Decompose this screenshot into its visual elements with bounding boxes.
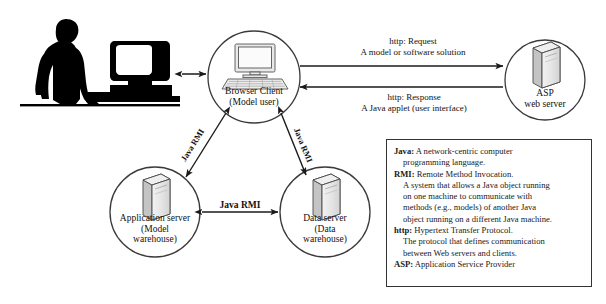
- legend-entry-http: http: Hypertext Transfer Protocol. The p…: [394, 225, 585, 259]
- legend-text-asp: Application Service Provider: [413, 259, 515, 269]
- edge-label-rmi-bottom: Java RMI: [205, 200, 275, 210]
- legend-entry-rmi: RMI: Remote Method Invocation. A system …: [394, 169, 585, 225]
- node-label-application-server: Application server (Model warehouse): [105, 213, 205, 245]
- legend-java-cont-1: programming language.: [394, 157, 585, 168]
- http-response-line1: http: Response: [326, 92, 502, 103]
- appserver-line3: warehouse): [105, 234, 205, 245]
- legend-rmi-cont-2: on one machine to communicate with: [394, 191, 585, 202]
- legend-entry-java: Java: A network-centric computer program…: [394, 146, 585, 169]
- legend-entry-asp: ASP: Application Service Provider: [394, 259, 585, 270]
- edge-label-http-response: http: Response A Java applet (user inter…: [326, 92, 502, 113]
- asp-line2: web server: [500, 99, 590, 110]
- legend-http-cont-2: between Web servers and clients.: [394, 248, 585, 259]
- server-tower-icon-asp: [533, 42, 560, 88]
- legend-rmi-cont-4: object running on a different Java machi…: [394, 214, 585, 225]
- legend-box: Java: A network-centric computer program…: [386, 139, 592, 287]
- legend-term-http: http:: [394, 225, 412, 235]
- user-at-workstation-silhouette: [20, 19, 180, 106]
- diagram-canvas: Browser Client (Model user) ASP web serv…: [0, 0, 606, 304]
- edge-label-http-request: http: Request A model or software soluti…: [328, 36, 498, 57]
- desktop-computer-icon: [222, 44, 288, 89]
- http-response-line2: A Java applet (user interface): [326, 103, 502, 114]
- legend-term-java: Java:: [394, 146, 414, 156]
- legend-rmi-cont-3: methods (e.g., models) of another Java: [394, 202, 585, 213]
- browser-client-line2: (Model user): [204, 97, 304, 108]
- legend-term-rmi: RMI:: [394, 169, 415, 179]
- dataserver-line3: warehouse): [275, 234, 375, 245]
- http-request-line2: A model or software solution: [328, 47, 498, 58]
- dataserver-line2: (Data: [275, 224, 375, 235]
- http-request-line1: http: Request: [328, 36, 498, 47]
- appserver-line1: Application server: [105, 213, 205, 224]
- legend-http-cont-1: The protocol that defines communication: [394, 236, 585, 247]
- browser-client-line1: Browser Client: [204, 86, 304, 97]
- node-label-data-server: Data server (Data warehouse): [275, 213, 375, 245]
- asp-line1: ASP: [500, 88, 590, 99]
- legend-text-rmi: Remote Method Invocation.: [415, 169, 514, 179]
- legend-text-java: A network-centric computer: [414, 146, 513, 156]
- legend-rmi-cont-1: A system that allows a Java object runni…: [394, 180, 585, 191]
- node-label-asp-web-server: ASP web server: [500, 88, 590, 109]
- legend-text-http: Hypertext Transfer Protocol.: [412, 225, 513, 235]
- appserver-line2: (Model: [105, 224, 205, 235]
- node-label-browser-client: Browser Client (Model user): [204, 86, 304, 107]
- dataserver-line1: Data server: [275, 213, 375, 224]
- legend-term-asp: ASP:: [394, 259, 413, 269]
